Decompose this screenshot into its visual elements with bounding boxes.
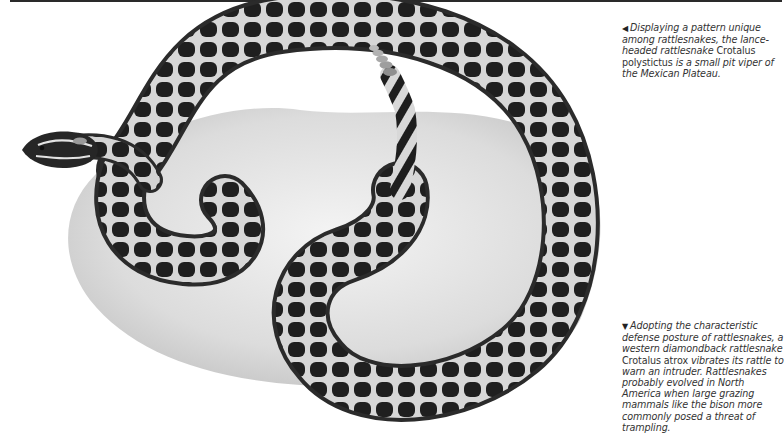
caption-western-diamondback: ▼Adopting the characteristic defense pos… [622, 320, 784, 433]
left-arrow-icon: ◀ [622, 24, 628, 33]
caption-lance-headed-rattlesnake: ◀Displaying a pattern unique among rattl… [622, 22, 782, 79]
snake-head [22, 131, 98, 168]
species-name: Crotalus atrox [622, 355, 688, 366]
down-arrow-icon: ▼ [622, 322, 628, 331]
